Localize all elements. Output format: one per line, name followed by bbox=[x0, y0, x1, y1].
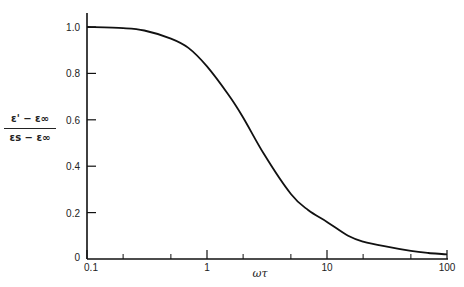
y-tick-label: 0.2 bbox=[66, 208, 80, 219]
y-tick-label: 0.8 bbox=[66, 68, 80, 79]
y-axis-title-numerator: ε' − ε∞ bbox=[4, 112, 56, 129]
data-curve bbox=[87, 27, 447, 254]
y-tick-label: 1.0 bbox=[66, 22, 80, 33]
y-tick-label: 0 bbox=[74, 252, 80, 263]
axis-ticks bbox=[87, 27, 447, 259]
x-axis-title: ωτ bbox=[252, 267, 268, 280]
y-tick-label: 0.4 bbox=[66, 161, 80, 172]
x-tick-label: 1 bbox=[204, 262, 210, 273]
y-axis-title-denominator: εs − ε∞ bbox=[4, 129, 56, 145]
x-tick-label: 0.1 bbox=[84, 262, 98, 273]
chart-canvas: 0.111010000.20.40.60.81.0 ωτ bbox=[0, 0, 464, 287]
axes bbox=[87, 13, 448, 259]
y-axis-title: ε' − ε∞ εs − ε∞ bbox=[4, 112, 56, 145]
y-tick-label: 0.6 bbox=[66, 115, 80, 126]
x-tick-label: 10 bbox=[321, 262, 333, 273]
x-tick-label: 100 bbox=[439, 262, 456, 273]
